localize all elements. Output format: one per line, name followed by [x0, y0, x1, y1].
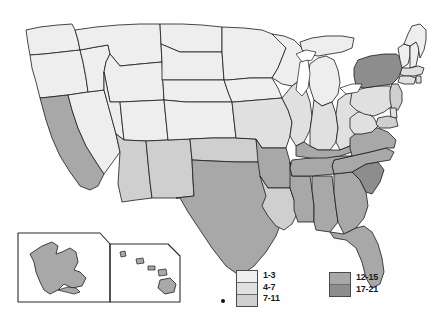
state-rhode-island [416, 76, 421, 83]
legend-label-7-11: 7-11 [263, 293, 280, 305]
state-massachusetts [400, 66, 424, 76]
legend-label-1-3: 1-3 [263, 270, 280, 282]
legend-dot-marker [221, 299, 225, 303]
state-oregon [30, 50, 88, 98]
legend-label-4-7: 4-7 [263, 282, 280, 294]
legend-low-classes: 1-3 4-7 7-11 [236, 270, 280, 307]
legend-swatch-1-3 [237, 271, 257, 283]
legend-high-labels: 12-15 17-21 [356, 272, 378, 295]
state-maryland [376, 116, 398, 128]
legend-low-swatches [236, 270, 258, 307]
state-hawaii-kauai [120, 251, 126, 257]
state-michigan-lp [308, 56, 340, 106]
state-connecticut [398, 76, 416, 84]
state-washington [26, 24, 80, 55]
state-hawaii-oahu [136, 258, 144, 264]
state-hawaii-maui [158, 269, 167, 276]
legend-swatch-7-11 [237, 295, 257, 306]
state-alaska-aleutians [58, 287, 80, 294]
state-new-york [354, 54, 404, 88]
state-hawaii-molokai [148, 266, 155, 270]
state-nebraska [162, 80, 232, 102]
state-new-mexico [146, 139, 194, 198]
legend-high-swatches [329, 272, 351, 297]
state-colorado [120, 100, 168, 141]
state-new-jersey [390, 84, 402, 110]
legend-swatch-4-7 [237, 283, 257, 295]
legend-label-17-21: 17-21 [356, 284, 378, 296]
state-oklahoma [190, 138, 260, 162]
state-indiana [310, 100, 338, 150]
state-hawaii-big-island [158, 278, 176, 294]
legend-swatch-12-15 [330, 273, 350, 285]
state-alaska [30, 242, 86, 294]
legend-swatch-17-21 [330, 285, 350, 296]
legend-label-12-15: 12-15 [356, 272, 378, 284]
legend-low-labels: 1-3 4-7 7-11 [263, 270, 280, 305]
state-kansas [164, 100, 236, 140]
choropleth-map-figure: 1-3 4-7 7-11 12-15 17-21 [0, 0, 429, 328]
legend-high-classes: 12-15 17-21 [329, 272, 378, 297]
